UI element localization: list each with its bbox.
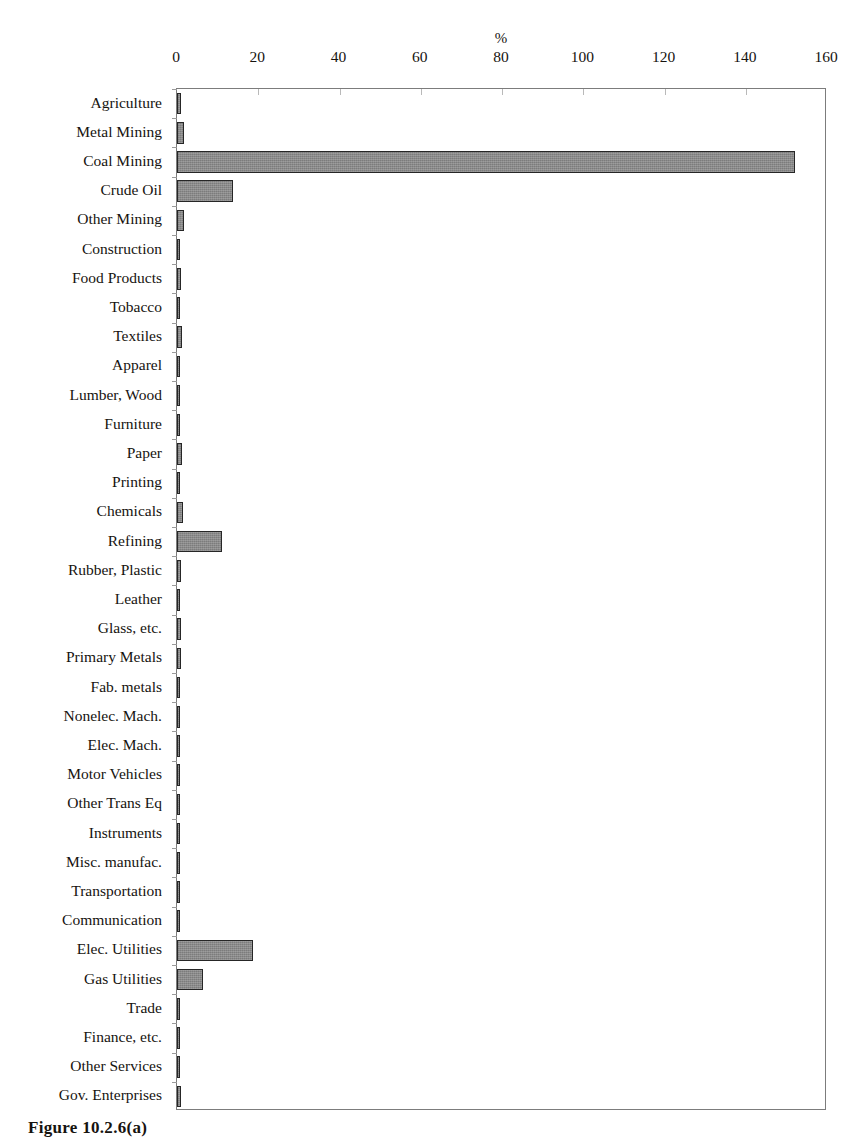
y-axis-label-agriculture: Agriculture: [91, 94, 162, 112]
plot-area: [176, 88, 826, 1110]
y-axis-category-labels: AgricultureMetal MiningCoal MiningCrude …: [0, 88, 170, 1110]
bar: [177, 93, 181, 115]
bar: [177, 618, 181, 640]
bar: [177, 1027, 180, 1049]
figure-container: % 020406080100120140160 AgricultureMetal…: [0, 0, 863, 1140]
y-axis-label-motor-vehicles: Motor Vehicles: [67, 765, 162, 783]
y-axis-label-communication: Communication: [62, 911, 162, 929]
y-axis-label-crude-oil: Crude Oil: [100, 181, 162, 199]
y-axis-label-other-services: Other Services: [70, 1057, 162, 1075]
bar: [177, 472, 180, 494]
bar: [177, 589, 180, 611]
bar: [177, 852, 180, 874]
y-axis-label-lumber-wood: Lumber, Wood: [69, 386, 162, 404]
y-axis-label-other-mining: Other Mining: [77, 210, 162, 228]
y-axis-label-construction: Construction: [82, 240, 162, 258]
bar: [177, 940, 253, 962]
y-axis-label-food-products: Food Products: [72, 269, 162, 287]
bar: [177, 326, 182, 348]
bars-layer: [177, 89, 827, 1111]
y-axis-label-textiles: Textiles: [113, 327, 162, 345]
y-axis-label-nonelec-mach: Nonelec. Mach.: [63, 707, 162, 725]
bar: [177, 180, 233, 202]
y-axis-label-gov-enterprises: Gov. Enterprises: [59, 1086, 162, 1104]
bar: [177, 268, 181, 290]
bar: [177, 443, 182, 465]
bar: [177, 531, 222, 553]
x-tick-label-60: 60: [412, 48, 428, 66]
figure-caption: Figure 10.2.6(a): [28, 1118, 147, 1138]
x-axis-tick-labels: 020406080100120140160: [176, 48, 826, 68]
y-axis-label-furniture: Furniture: [104, 415, 162, 433]
bar: [177, 1056, 180, 1078]
bar: [177, 239, 180, 261]
y-axis-label-metal-mining: Metal Mining: [76, 123, 162, 141]
y-axis-label-finance-etc: Finance, etc.: [83, 1028, 162, 1046]
bar: [177, 151, 795, 173]
bar: [177, 998, 180, 1020]
y-axis-label-apparel: Apparel: [112, 356, 162, 374]
y-axis-label-glass-etc: Glass, etc.: [98, 619, 162, 637]
bar: [177, 356, 180, 378]
bar: [177, 794, 180, 816]
bar: [177, 677, 180, 699]
y-axis-label-refining: Refining: [108, 532, 162, 550]
y-axis-label-misc-manufac: Misc. manufac.: [66, 853, 162, 871]
y-axis-label-gas-utilities: Gas Utilities: [84, 970, 162, 988]
bar: [177, 969, 203, 991]
y-axis-label-transportation: Transportation: [71, 882, 162, 900]
y-axis-label-leather: Leather: [115, 590, 162, 608]
x-tick-label-120: 120: [652, 48, 675, 66]
y-axis-label-tobacco: Tobacco: [110, 298, 162, 316]
x-tick-label-80: 80: [493, 48, 509, 66]
bar: [177, 910, 180, 932]
y-axis-label-trade: Trade: [126, 999, 162, 1017]
bar: [177, 764, 180, 786]
bar: [177, 735, 180, 757]
bar: [177, 706, 180, 728]
y-axis-label-instruments: Instruments: [89, 824, 162, 842]
y-axis-label-fab-metals: Fab. metals: [91, 678, 162, 696]
y-axis-label-chemicals: Chemicals: [97, 502, 162, 520]
bar: [177, 648, 181, 670]
y-axis-label-printing: Printing: [112, 473, 162, 491]
bar: [177, 210, 184, 232]
x-tick-label-140: 140: [733, 48, 756, 66]
x-tick-label-40: 40: [331, 48, 347, 66]
y-axis-label-rubber-plastic: Rubber, Plastic: [68, 561, 162, 579]
x-tick-label-20: 20: [250, 48, 266, 66]
x-tick-label-100: 100: [571, 48, 594, 66]
y-axis-label-coal-mining: Coal Mining: [83, 152, 162, 170]
y-axis-label-paper: Paper: [127, 444, 162, 462]
y-axis-label-other-trans-eq: Other Trans Eq: [67, 794, 162, 812]
y-axis-label-primary-metals: Primary Metals: [66, 648, 162, 666]
y-axis-label-elec-utilities: Elec. Utilities: [77, 940, 162, 958]
x-tick-label-0: 0: [172, 48, 180, 66]
x-tick-label-160: 160: [814, 48, 837, 66]
bar: [177, 881, 180, 903]
bar: [177, 414, 180, 436]
x-axis-title: %: [176, 30, 826, 47]
bar: [177, 297, 180, 319]
bar: [177, 560, 181, 582]
y-axis-label-elec-mach: Elec. Mach.: [88, 736, 162, 754]
bar: [177, 823, 180, 845]
bar: [177, 502, 183, 524]
bar: [177, 1086, 181, 1108]
bar: [177, 385, 180, 407]
bar: [177, 122, 184, 144]
